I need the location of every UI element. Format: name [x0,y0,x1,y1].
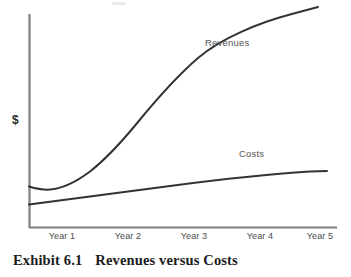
x-tick-label-year-3: Year 3 [164,231,224,241]
x-tick-label-year-5: Year 5 [290,231,350,241]
exhibit-figure: $ Revenues Costs Year 1 Year 2 Year 3 Ye… [0,0,351,277]
chart-svg [0,0,351,248]
figure-caption-title: Revenues versus Costs [95,252,238,268]
figure-caption: Exhibit 6.1Revenues versus Costs [13,252,343,269]
x-tick-label-year-1: Year 1 [32,231,92,241]
series-label-costs: Costs [239,148,264,159]
figure-caption-number: Exhibit 6.1 [13,252,82,268]
y-axis-title: $ [12,113,19,127]
costs-series-line [29,171,327,205]
series-label-revenues: Revenues [205,37,249,48]
chart-plot-area: $ Revenues Costs Year 1 Year 2 Year 3 Ye… [0,0,351,248]
x-tick-label-year-4: Year 4 [230,231,290,241]
x-tick-label-year-2: Year 2 [98,231,158,241]
revenues-series-line [29,7,318,190]
